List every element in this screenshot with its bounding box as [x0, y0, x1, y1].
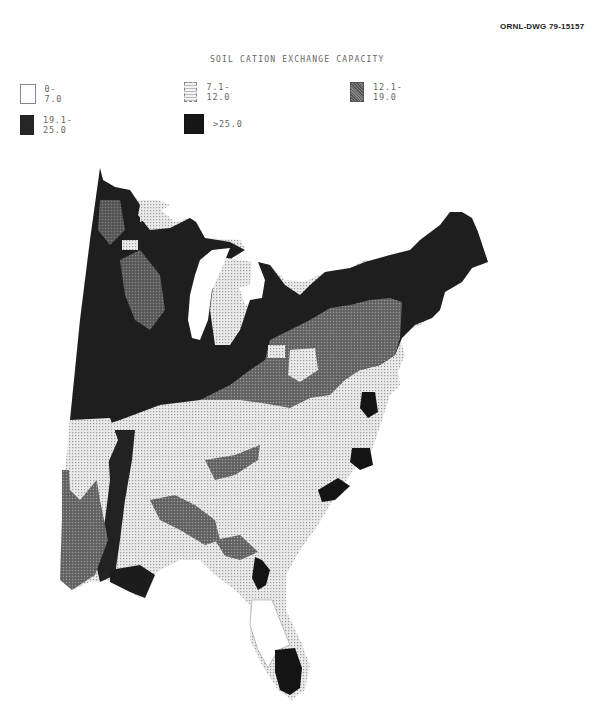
region-light-wi-patch: [122, 240, 138, 250]
region-light-ohio2: [268, 345, 285, 358]
choropleth-map: [0, 0, 594, 715]
map-land: [60, 168, 488, 700]
